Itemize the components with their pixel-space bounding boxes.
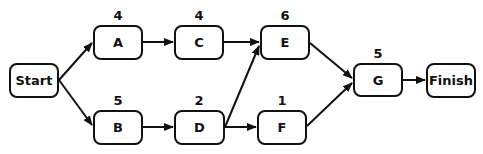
node-finish: Finish: [426, 63, 476, 98]
node-a: A: [93, 25, 143, 60]
node-label: D: [194, 120, 205, 135]
node-label: C: [194, 35, 204, 50]
duration-b: 5: [93, 93, 143, 108]
edge-d-e: [225, 46, 259, 127]
node-g: G: [353, 63, 403, 97]
duration-e: 6: [260, 8, 310, 23]
node-start: Start: [9, 63, 59, 98]
node-label: Finish: [429, 73, 473, 88]
edge-start-b: [59, 80, 92, 125]
node-label: Start: [16, 73, 53, 88]
duration-a: 4: [93, 8, 143, 23]
node-c: C: [174, 25, 224, 60]
edge-e-g: [310, 43, 352, 78]
node-d: D: [174, 110, 225, 145]
node-f: F: [257, 110, 307, 145]
node-e: E: [260, 25, 310, 60]
duration-f: 1: [257, 93, 307, 108]
edge-start-a: [59, 43, 92, 80]
node-label: F: [278, 120, 287, 135]
duration-g: 5: [353, 46, 403, 61]
node-label: E: [281, 35, 290, 50]
duration-d: 2: [174, 93, 224, 108]
node-label: G: [373, 73, 384, 88]
edge-f-g: [307, 83, 352, 126]
node-label: B: [113, 120, 123, 135]
edges-layer: [0, 0, 483, 154]
node-b: B: [93, 110, 143, 145]
node-label: A: [113, 35, 123, 50]
duration-c: 4: [174, 8, 224, 23]
